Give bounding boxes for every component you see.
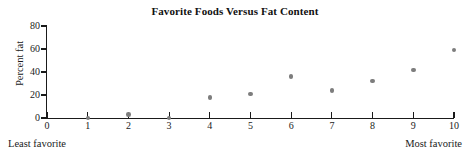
x-tick-label: 7 bbox=[320, 120, 344, 131]
chart-title: Favorite Foods Versus Fat Content bbox=[0, 5, 470, 17]
scatter-chart: Favorite Foods Versus Fat Content Percen… bbox=[0, 0, 470, 162]
x-tick-label: 9 bbox=[401, 120, 425, 131]
least-favorite-note: Least favorite bbox=[8, 138, 66, 150]
x-tick-label: 1 bbox=[76, 120, 100, 131]
x-tick-label: 2 bbox=[116, 120, 140, 131]
data-point bbox=[289, 74, 293, 78]
x-tick-label: 10 bbox=[442, 120, 466, 131]
x-tick-label: 3 bbox=[157, 120, 181, 131]
data-point bbox=[330, 88, 334, 92]
x-tick-label: 5 bbox=[239, 120, 263, 131]
x-tick-label: 8 bbox=[361, 120, 385, 131]
most-favorite-note: Most favorite bbox=[405, 138, 462, 150]
y-tick-label: 40 bbox=[0, 67, 40, 77]
data-point bbox=[86, 116, 90, 120]
y-tick-label: 80 bbox=[0, 21, 40, 31]
x-tick-label: 4 bbox=[198, 120, 222, 131]
data-point bbox=[370, 79, 374, 83]
data-point bbox=[208, 95, 212, 99]
plot-area bbox=[47, 26, 470, 118]
x-tick-label: 6 bbox=[279, 120, 303, 131]
x-tick-label: 0 bbox=[35, 120, 59, 131]
y-tick-label: 60 bbox=[0, 44, 40, 54]
y-tick-label: 0 bbox=[0, 113, 40, 123]
y-tick-label: 20 bbox=[0, 90, 40, 100]
data-point bbox=[411, 68, 415, 72]
data-point bbox=[126, 112, 130, 116]
data-point bbox=[452, 48, 456, 52]
data-point bbox=[248, 92, 252, 96]
